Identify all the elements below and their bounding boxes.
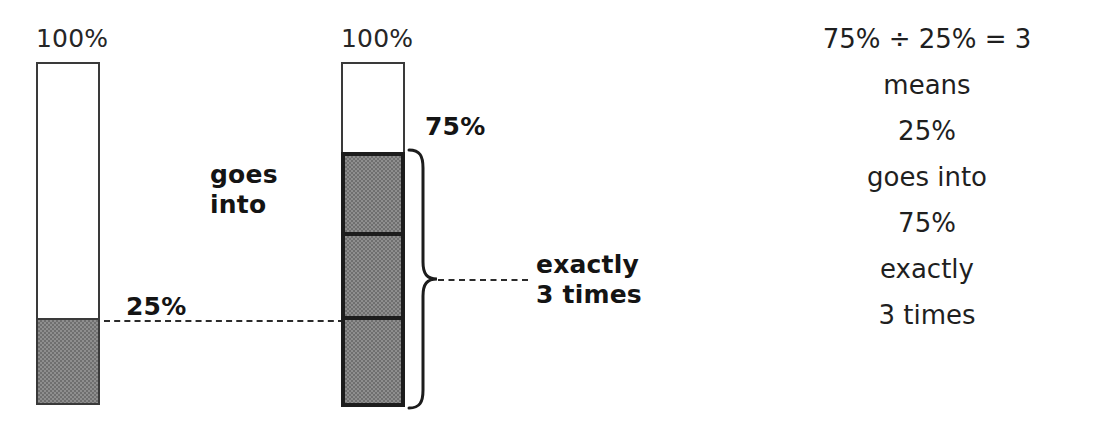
middle-caption-line-2: into (210, 190, 278, 220)
curly-brace-icon (406, 146, 440, 412)
brace-caption-line-2: 3 times (536, 280, 642, 310)
brace-caption-line-1: exactly (536, 250, 642, 280)
left-bar-fill-25 (36, 318, 100, 405)
dashed-connector-25-percent (104, 320, 344, 322)
explanation-line-4: goes into (760, 164, 1094, 190)
explanation-block: 75% ÷ 25% = 3 means 25% goes into 75% ex… (760, 26, 1094, 328)
left-bar-total-label: 100% (36, 26, 100, 51)
explanation-line-5: 75% (760, 210, 1094, 236)
dashed-connector-brace (438, 279, 528, 281)
right-bar-outline (341, 62, 405, 405)
right-bar-total-label: 100% (341, 26, 405, 51)
explanation-line-2: means (760, 72, 1094, 98)
explanation-line-3: 25% (760, 118, 1094, 144)
right-bar-segment-2 (341, 236, 405, 320)
curly-brace (406, 146, 440, 412)
left-bar-outline (36, 62, 100, 405)
right-bar-segment-3 (341, 320, 405, 407)
percent-division-illustration: { "diagram": { "left_bar": { "top_label"… (0, 0, 1094, 431)
explanation-line-1: 75% ÷ 25% = 3 (760, 26, 1094, 52)
middle-caption-line-1: goes (210, 160, 278, 190)
middle-caption: goes into (210, 160, 278, 219)
right-bar-fill-label: 75% (425, 112, 485, 142)
left-bar-fill-label: 25% (126, 292, 186, 322)
brace-caption: exactly 3 times (536, 250, 642, 309)
explanation-line-6: exactly (760, 256, 1094, 282)
right-bar-segment-1 (341, 152, 405, 236)
explanation-line-7: 3 times (760, 302, 1094, 328)
